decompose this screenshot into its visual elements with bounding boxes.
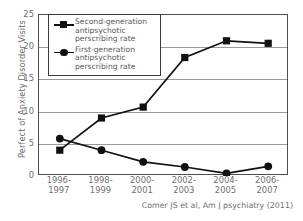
data-point-square	[98, 114, 105, 121]
chart-legend: Second-generation antipsychotic perscrib…	[48, 14, 161, 76]
y-tick-label: 25	[18, 10, 34, 18]
x-tick-line: 2007	[240, 186, 294, 196]
legend-entry-second-generation: Second-generation antipsychotic perscrib…	[53, 18, 157, 44]
data-point-square	[140, 104, 147, 111]
y-tick-label: 5	[18, 139, 34, 147]
citation-text: Comer JS et al, Am J psychiatry (2011)	[0, 201, 293, 210]
data-point-square	[56, 147, 63, 154]
chart-figure: Perfect of Anxiety Disorder Visits 25 20…	[0, 0, 303, 221]
y-tick-label: 10	[18, 107, 34, 115]
legend-entry-label: Second-generation antipsychotic perscrib…	[75, 18, 147, 44]
square-marker-icon	[53, 19, 75, 30]
data-point-circle	[264, 162, 272, 170]
legend-entry-first-generation: First-generation antipsychotic perscribi…	[53, 46, 157, 72]
data-point-circle	[56, 135, 64, 143]
x-axis-tick-labels: 1996-19971998-19992000-20012002-20032004…	[38, 176, 288, 202]
legend-line: perscribing rate	[75, 35, 147, 44]
y-tick-label: 20	[18, 42, 34, 50]
plot-area: Second-generation antipsychotic perscrib…	[38, 14, 288, 175]
data-point-circle	[181, 163, 189, 171]
series-first-generation-line	[60, 139, 268, 174]
y-tick-label: 15	[18, 74, 34, 82]
data-point-square	[223, 37, 230, 44]
data-point-square	[265, 40, 272, 47]
series-first-generation-markers	[56, 135, 272, 176]
x-tick-label: 2006-2007	[240, 176, 294, 195]
circle-marker-icon	[53, 47, 75, 58]
data-point-circle	[98, 146, 106, 154]
legend-line: perscribing rate	[75, 63, 135, 72]
legend-entry-label: First-generation antipsychotic perscribi…	[75, 46, 135, 72]
data-point-square	[181, 54, 188, 61]
data-point-circle	[139, 158, 147, 166]
